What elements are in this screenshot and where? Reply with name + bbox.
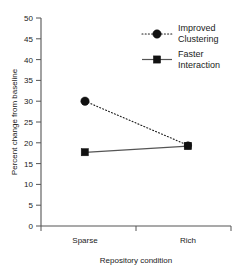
y-tick-label-5: 5 bbox=[29, 201, 34, 210]
legend-label-faster-interaction-line1: Faster bbox=[178, 49, 204, 59]
legend-label-improved-clustering-line1: Improved bbox=[178, 23, 216, 33]
data-point-faster-interaction-rich bbox=[184, 142, 191, 149]
legend-label-improved-clustering-line2: Clustering bbox=[178, 34, 219, 44]
y-axis-title: Percent change from baseline bbox=[10, 68, 19, 175]
legend-marker-square-icon bbox=[153, 56, 160, 63]
line-chart-canvas: 50 45 40 35 30 25 20 15 10 5 0 Sparse Ri… bbox=[0, 0, 252, 274]
y-tick-label-15: 15 bbox=[24, 160, 33, 169]
y-tick-label-50: 50 bbox=[24, 14, 33, 23]
chart-figure: 50 45 40 35 30 25 20 15 10 5 0 Sparse Ri… bbox=[0, 0, 252, 274]
y-tick-label-45: 45 bbox=[24, 35, 33, 44]
x-axis-ticks bbox=[41, 226, 231, 231]
series-line-faster-interaction bbox=[85, 146, 188, 152]
x-axis-title: Repository condition bbox=[100, 256, 172, 265]
y-tick-label-10: 10 bbox=[24, 180, 33, 189]
legend-entry-improved-clustering: Improved Clustering bbox=[142, 23, 219, 44]
data-point-improved-clustering-sparse bbox=[81, 97, 89, 105]
x-tick-label-rich: Rich bbox=[180, 236, 196, 245]
y-tick-label-40: 40 bbox=[24, 56, 33, 65]
y-tick-label-30: 30 bbox=[24, 97, 33, 106]
y-tick-label-35: 35 bbox=[24, 76, 33, 85]
data-point-faster-interaction-sparse bbox=[81, 149, 88, 156]
legend-marker-circle-icon bbox=[153, 30, 161, 38]
series-line-improved-clustering bbox=[85, 101, 188, 145]
x-tick-label-sparse: Sparse bbox=[72, 236, 98, 245]
legend-entry-faster-interaction: Faster Interaction bbox=[142, 49, 220, 70]
y-tick-label-0: 0 bbox=[29, 222, 34, 231]
y-axis-tick-labels: 50 45 40 35 30 25 20 15 10 5 0 bbox=[24, 14, 33, 231]
legend-label-faster-interaction-line2: Interaction bbox=[178, 60, 220, 70]
y-tick-label-25: 25 bbox=[24, 118, 33, 127]
chart-legend: Improved Clustering Faster Interaction bbox=[142, 23, 220, 70]
y-axis-ticks bbox=[36, 18, 41, 226]
y-tick-label-20: 20 bbox=[24, 139, 33, 148]
